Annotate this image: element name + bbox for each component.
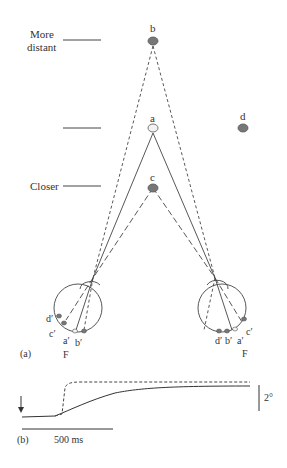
closer-label: Closer <box>30 180 59 192</box>
diagram-canvas <box>0 0 287 468</box>
right-b-label: b′ <box>225 335 232 347</box>
target-d <box>238 124 248 132</box>
far-label-line1: More <box>30 28 54 40</box>
vergence-trace-dashed <box>55 382 250 416</box>
sightlines-a <box>76 133 232 330</box>
target-d-label: d <box>240 110 246 122</box>
right-a-label: a′ <box>237 335 244 347</box>
angle-scale-label: 2° <box>264 392 273 404</box>
target-a-label: a <box>150 112 155 124</box>
target-c-label: c <box>150 171 155 183</box>
target-b-label: b <box>150 22 156 34</box>
arrow-head-icon <box>18 407 24 413</box>
sightlines-c <box>66 188 242 322</box>
target-b <box>148 37 158 45</box>
left-c-label: c′ <box>49 328 56 340</box>
left-d-label: d′ <box>46 313 53 325</box>
target-c <box>148 184 158 192</box>
left-retina-images <box>57 314 87 333</box>
right-d-label: d′ <box>215 335 222 347</box>
panel-b-label: (b) <box>17 434 29 446</box>
vergence-trace-solid <box>22 386 250 417</box>
time-scale-label: 500 ms <box>54 434 83 446</box>
panel-a-label: (a) <box>20 348 31 360</box>
target-a <box>148 124 158 132</box>
far-label-line2: distant <box>27 41 56 53</box>
left-fovea-label: F <box>63 349 69 361</box>
left-b-label: b′ <box>75 337 82 349</box>
right-c-label: c′ <box>246 326 253 338</box>
left-a-label: a′ <box>63 335 70 347</box>
right-retina-images <box>217 317 247 333</box>
right-eye <box>198 280 246 332</box>
right-fovea-label: F <box>242 348 248 360</box>
